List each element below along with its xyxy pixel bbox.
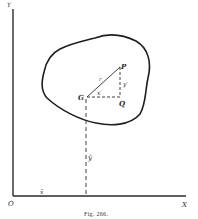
radius-line-gp xyxy=(87,67,120,97)
figure-caption: Fig. 266. xyxy=(84,211,108,217)
radius-label: r xyxy=(99,76,102,82)
x-bar-label: x̄ xyxy=(40,188,44,195)
y-axis-label: Y xyxy=(7,1,12,8)
point-p-label: P xyxy=(120,62,127,71)
area-outline xyxy=(42,35,149,125)
point-g-label: G xyxy=(78,93,84,102)
y-bar-label: ȳ xyxy=(87,154,93,162)
diagram-canvas: Y O X x̄ ȳ G P Q x′ y′ r Fig. 266. xyxy=(0,0,198,219)
point-q-label: Q xyxy=(119,99,125,108)
y-prime-label: y′ xyxy=(122,80,128,88)
figure: Y O X x̄ ȳ G P Q x′ y′ r Fig. 266. xyxy=(0,0,198,219)
x-axis-label: X xyxy=(181,201,188,209)
origin-label: O xyxy=(8,200,14,208)
x-prime-label: x′ xyxy=(97,89,102,96)
